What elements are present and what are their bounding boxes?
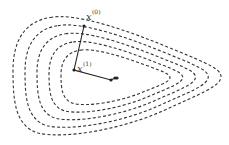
contour-lines <box>13 17 221 135</box>
contour-diagram: x (0) x (1) <box>0 0 229 145</box>
iterate-point-x2 <box>109 78 112 81</box>
iterate-point-x1 <box>72 68 75 71</box>
contour-line-1 <box>13 17 221 135</box>
label-x1-superscript: (1) <box>83 60 92 67</box>
iterate-point-x0 <box>82 24 85 27</box>
contour-line-2 <box>25 25 208 127</box>
iterate-point-x4 <box>115 76 118 79</box>
label-x0-superscript: (0) <box>92 8 101 15</box>
label-x1: x (1) <box>77 60 92 74</box>
label-x0: x (0) <box>86 8 101 22</box>
